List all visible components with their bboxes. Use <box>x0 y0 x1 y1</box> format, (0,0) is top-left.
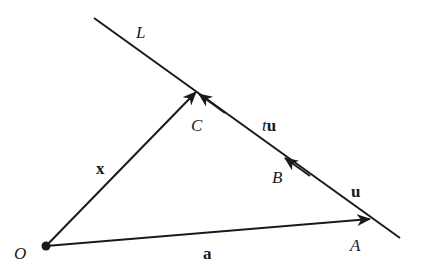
label-line-l: L <box>135 23 145 42</box>
line-l <box>94 18 400 238</box>
label-vector-tu: tu <box>262 116 276 135</box>
label-point-b: B <box>272 168 283 187</box>
vector-x-arrow <box>46 92 196 246</box>
label-tu-u: u <box>267 116 276 135</box>
vector-a-arrow <box>46 219 370 246</box>
label-point-c: C <box>191 116 203 135</box>
origin-point <box>42 242 51 251</box>
vector-u-arrowhead <box>285 158 310 176</box>
vector-tu-arrowhead <box>199 94 225 113</box>
vector-diagram: L C tu x B u O a A <box>0 0 422 267</box>
label-point-a: A <box>349 236 361 255</box>
label-vector-u: u <box>351 182 360 201</box>
label-vector-x: x <box>96 159 105 178</box>
label-point-o: O <box>14 244 26 263</box>
label-vector-a: a <box>203 244 212 263</box>
